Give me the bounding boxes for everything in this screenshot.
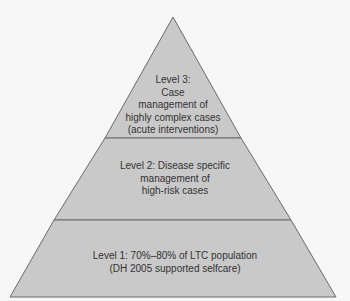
level-3-label: Level 3: Case management of highly compl… [110,74,236,137]
level-1-label: Level 1: 70%–80% of LTC population (DH 2… [40,250,310,275]
level-2-label: Level 2: Disease specific management of … [80,160,270,198]
